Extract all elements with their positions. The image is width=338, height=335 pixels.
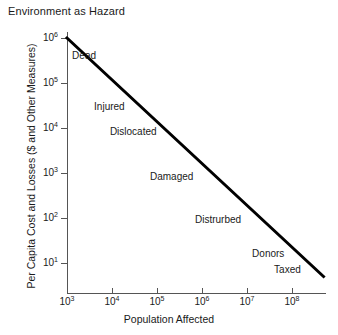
data-label: Dead [72, 51, 96, 61]
chart-figure: Environment as Hazard 106105104103102101… [0, 0, 338, 335]
data-label: Damaged [150, 172, 193, 182]
trend-line-svg [0, 0, 338, 335]
trend-line [67, 38, 324, 277]
data-label: Distrurbed [195, 215, 241, 225]
data-label: Dislocated [110, 127, 157, 137]
x-axis-title: Population Affected [0, 313, 338, 325]
data-label: Donors [252, 249, 284, 259]
y-axis-title: Per Capita Cost and Losses ($ and Other … [25, 32, 37, 300]
data-label: Injured [94, 102, 125, 112]
data-label: Taxed [274, 265, 301, 275]
